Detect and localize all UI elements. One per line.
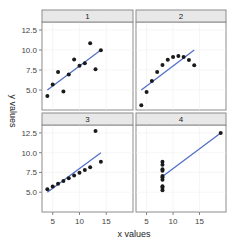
data-point — [56, 182, 60, 186]
data-point — [67, 72, 71, 76]
data-point — [99, 160, 103, 164]
facet-label: 1 — [85, 12, 90, 21]
facet-panel-3: 3 — [42, 113, 133, 212]
data-point — [67, 176, 71, 180]
facet-label: 2 — [179, 12, 184, 21]
data-point — [192, 63, 196, 67]
data-point — [139, 103, 143, 107]
x-tick-label: 15 — [102, 217, 111, 226]
x-tick-label: 5 — [144, 217, 149, 226]
data-point — [45, 187, 49, 191]
data-point — [160, 163, 164, 167]
data-point — [171, 55, 175, 59]
x-tick-label: 5 — [50, 217, 55, 226]
data-point — [160, 63, 164, 67]
data-point — [61, 89, 65, 93]
y-axis-label: y values — [8, 94, 18, 128]
x-tick-label: 10 — [75, 217, 84, 226]
data-point — [182, 55, 186, 59]
y-tick-label: 10.0 — [21, 149, 37, 158]
data-point — [83, 168, 87, 172]
data-point — [160, 175, 164, 179]
data-point — [72, 174, 76, 178]
data-point — [166, 58, 170, 62]
x-tick-label: 10 — [169, 217, 178, 226]
data-point — [187, 58, 191, 62]
data-point — [45, 94, 49, 98]
data-point — [155, 70, 159, 74]
facet-panel-4: 4 — [136, 113, 226, 212]
y-tick-label: 7.5 — [26, 66, 38, 75]
data-point — [176, 54, 180, 58]
data-point — [77, 64, 81, 68]
y-tick-label: 12.5 — [21, 26, 37, 35]
data-point — [88, 165, 92, 169]
anscombe-chart: 1234 5.07.510.012.55.07.510.012.55101551… — [0, 0, 233, 244]
y-tick-label: 10.0 — [21, 46, 37, 55]
facet-panel-1: 1 — [42, 10, 133, 110]
facet-label: 3 — [85, 115, 90, 124]
x-tick-label: 15 — [195, 217, 204, 226]
data-point — [77, 171, 81, 175]
y-tick-label: 7.5 — [26, 168, 38, 177]
data-point — [51, 83, 55, 87]
data-point — [145, 90, 149, 94]
y-tick-label: 12.5 — [21, 129, 37, 138]
facet-label: 4 — [179, 115, 184, 124]
data-point — [160, 186, 164, 190]
data-point — [88, 41, 92, 45]
data-point — [150, 79, 154, 83]
y-tick-label: 5.0 — [26, 86, 38, 95]
data-point — [83, 61, 87, 65]
data-point — [72, 58, 76, 62]
data-point — [61, 179, 65, 183]
y-tick-label: 5.0 — [26, 188, 38, 197]
data-point — [219, 131, 223, 135]
facet-panel-2: 2 — [136, 10, 226, 110]
data-point — [56, 70, 60, 74]
data-point — [99, 48, 103, 52]
data-point — [94, 67, 98, 71]
data-point — [94, 129, 98, 133]
data-point — [160, 167, 164, 171]
data-point — [51, 184, 55, 188]
x-axis-label: x values — [117, 229, 151, 239]
